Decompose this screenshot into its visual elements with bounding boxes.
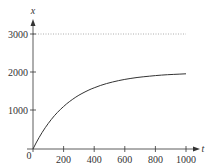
x-tick-label-200: 200 <box>56 154 71 165</box>
y-tick-label-3000: 3000 <box>8 29 28 40</box>
x-tick-label-600: 600 <box>117 154 132 165</box>
chart: 3000 2000 1000 0 200 400 600 800 1000 x … <box>0 0 207 167</box>
y-tick-label-1000: 1000 <box>8 105 28 116</box>
x-tick-label-400: 400 <box>87 154 102 165</box>
x-tick-label-1000: 1000 <box>176 154 196 165</box>
y-axis-label: x <box>30 5 36 16</box>
x-axis-label: t <box>202 143 205 154</box>
y-axis-arrow-icon <box>31 19 36 26</box>
y-tick-label-2000: 2000 <box>8 67 28 78</box>
origin-label: 0 <box>27 150 32 161</box>
x-axis-arrow-icon <box>193 147 200 152</box>
x-tick-label-800: 800 <box>148 154 163 165</box>
curve-x-of-t <box>33 74 186 149</box>
